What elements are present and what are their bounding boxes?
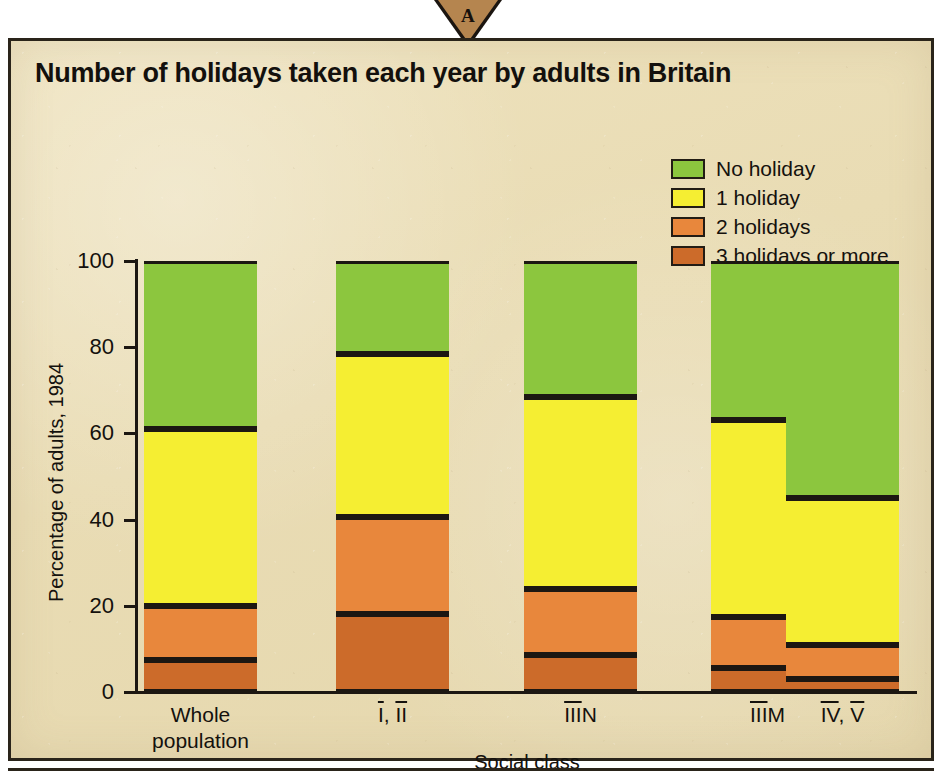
chart-panel: Number of holidays taken each year by ad…	[8, 38, 934, 761]
bar-segment	[524, 589, 637, 656]
bar-segment	[786, 261, 899, 498]
stacked-bar	[524, 261, 637, 692]
stacked-bar	[786, 261, 899, 692]
bar-segment	[144, 660, 257, 692]
y-axis-line	[135, 259, 138, 694]
bar-segment	[786, 679, 899, 692]
stacked-bar	[336, 261, 449, 692]
x-axis-category-label: IV, V	[768, 702, 918, 728]
y-tick-mark	[124, 260, 136, 263]
page-bottom-rule	[8, 768, 934, 771]
y-tick-label: 100	[58, 248, 114, 274]
y-tick-label: 0	[58, 679, 114, 705]
bar-segment	[336, 517, 449, 614]
bar-segment	[786, 645, 899, 679]
y-tick-mark	[124, 519, 136, 522]
y-axis-title: Percentage of adults, 1984	[45, 353, 68, 613]
bar-segment	[786, 498, 899, 645]
y-tick-mark	[124, 346, 136, 349]
stacked-bar	[144, 261, 257, 692]
y-tick-mark	[124, 605, 136, 608]
x-axis-category-label: I, II	[318, 702, 468, 728]
x-axis-category-label: Wholepopulation	[126, 702, 276, 754]
bar-segment	[144, 606, 257, 660]
bar-segment	[336, 354, 449, 518]
x-axis-category-label: IIIN	[506, 702, 656, 728]
bar-segment	[144, 261, 257, 429]
bar-segment	[524, 261, 637, 397]
plot-area: 020406080100 WholepopulationI, IIIIINIII…	[11, 41, 937, 764]
page-marker-area: A	[0, 0, 942, 40]
bar-segment	[144, 429, 257, 606]
bar-segment	[336, 614, 449, 692]
section-marker-letter: A	[434, 5, 502, 27]
y-tick-mark	[124, 432, 136, 435]
bar-segment	[524, 397, 637, 589]
bar-segment	[336, 261, 449, 354]
y-tick-mark	[124, 691, 136, 694]
bar-segment	[524, 655, 637, 692]
